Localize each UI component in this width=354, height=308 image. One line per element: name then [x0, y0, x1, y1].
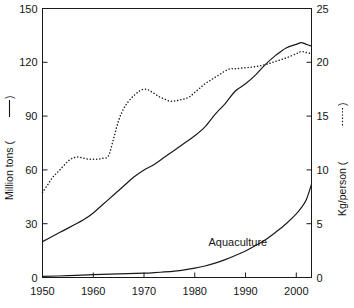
y-tick-label-left: 0 — [31, 272, 37, 284]
chart-figure: 0306090120150 0510152025 195019601970198… — [0, 0, 354, 308]
line-chart: 0306090120150 0510152025 195019601970198… — [0, 0, 354, 308]
y-axis-right-title: Kg/person ( ) — [336, 103, 348, 217]
series-path-total-production — [43, 43, 312, 242]
series-label-aquaculture: Aquaculture — [209, 236, 268, 248]
y-axis-right-ticks: 0510152025 — [307, 3, 329, 284]
y-axis-right-title-text: Kg/person ( — [336, 161, 348, 216]
y-tick-label-right: 15 — [317, 110, 329, 122]
y-axis-right-title-paren: ) — [336, 103, 348, 107]
y-tick-label-left: 30 — [25, 218, 37, 230]
y-tick-label-left: 90 — [25, 110, 37, 122]
y-tick-label-right: 20 — [317, 56, 329, 68]
y-tick-label-right: 5 — [317, 218, 323, 230]
y-tick-label-right: 10 — [317, 164, 329, 176]
y-axis-left-title: Million tons ( ) — [3, 96, 15, 201]
series-layer — [43, 43, 312, 277]
plot-frame — [43, 9, 312, 278]
y-tick-label-right: 25 — [317, 3, 329, 15]
x-tick-label: 1980 — [183, 285, 207, 297]
series-path-aquaculture — [43, 184, 312, 276]
y-axis-left-title-text: Million tons ( — [3, 141, 15, 200]
x-tick-label: 2000 — [284, 285, 308, 297]
x-tick-label: 1950 — [30, 285, 54, 297]
y-tick-label-left: 150 — [19, 3, 37, 15]
x-tick-label: 1960 — [81, 285, 105, 297]
y-tick-label-left: 60 — [25, 164, 37, 176]
x-tick-label: 1970 — [132, 285, 156, 297]
y-tick-label-left: 120 — [19, 56, 37, 68]
x-tick-label: 1990 — [233, 285, 257, 297]
series-path-per-capita-supply — [43, 52, 312, 193]
y-tick-label-right: 0 — [317, 272, 323, 284]
y-axis-left-title-paren: ) — [3, 96, 15, 100]
